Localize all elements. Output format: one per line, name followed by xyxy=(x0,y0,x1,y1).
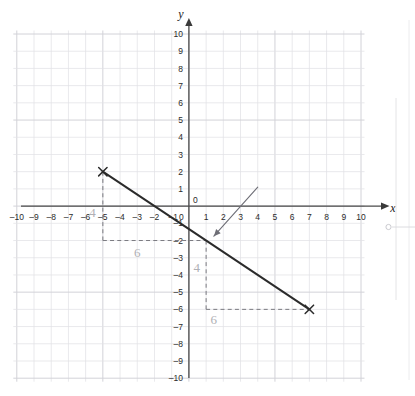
x-tick-label: 2 xyxy=(221,212,226,222)
x-tick-label: 8 xyxy=(324,212,329,222)
y-tick-label: –5 xyxy=(173,287,183,297)
x-tick-label: 6 xyxy=(290,212,295,222)
x-tick-label: –7 xyxy=(64,212,74,222)
graph-canvas: x y –10–9–8–7–6–5–4–3–2–1012345678910 10… xyxy=(0,0,415,396)
y-tick-label: 8 xyxy=(178,64,183,74)
y-tick-label: 6 xyxy=(178,98,183,108)
y-tick-label: 9 xyxy=(178,46,183,56)
x-tick-label: –4 xyxy=(115,212,125,222)
canvas-background xyxy=(0,0,415,396)
y-tick-label: –8 xyxy=(173,339,183,349)
y-tick-label: 10 xyxy=(173,29,183,39)
upper-run: 6 xyxy=(134,245,141,260)
y-tick-label: 5 xyxy=(178,115,183,125)
x-tick-label: 9 xyxy=(341,212,346,222)
y-tick-label: –7 xyxy=(173,322,183,332)
y-tick-label: –9 xyxy=(173,356,183,366)
y-tick-label: –3 xyxy=(173,253,183,263)
coordinate-grid-figure: x y –10–9–8–7–6–5–4–3–2–1012345678910 10… xyxy=(0,0,415,396)
x-tick-label: 7 xyxy=(307,212,312,222)
binding-hole-icon xyxy=(386,224,391,229)
x-tick-label: –9 xyxy=(29,212,39,222)
x-tick-label: –2 xyxy=(150,212,160,222)
x-tick-label: –8 xyxy=(46,212,56,222)
y-tick-label: –4 xyxy=(173,270,183,280)
x-tick-label: 3 xyxy=(238,212,243,222)
y-axis-label: y xyxy=(177,7,184,21)
y-tick-label: 7 xyxy=(178,81,183,91)
y-tick-label: 4 xyxy=(178,132,183,142)
y-tick-label: 3 xyxy=(178,150,183,160)
x-tick-label: 10 xyxy=(356,212,366,222)
lower-run: 6 xyxy=(211,312,218,327)
x-tick-label: –10 xyxy=(10,212,24,222)
lower-rise: 4 xyxy=(193,260,200,275)
upper-rise: 4 xyxy=(89,205,96,220)
x-tick-label: 1 xyxy=(204,212,209,222)
x-tick-label: –3 xyxy=(133,212,143,222)
origin-label: 0 xyxy=(193,195,198,205)
x-tick-label: 5 xyxy=(273,212,278,222)
y-tick-label: 2 xyxy=(178,167,183,177)
y-tick-label: 1 xyxy=(178,184,183,194)
y-tick-label: –10 xyxy=(169,373,183,383)
x-tick-label: 4 xyxy=(255,212,260,222)
x-axis-label: x xyxy=(389,201,396,215)
y-tick-label: –6 xyxy=(173,304,183,314)
